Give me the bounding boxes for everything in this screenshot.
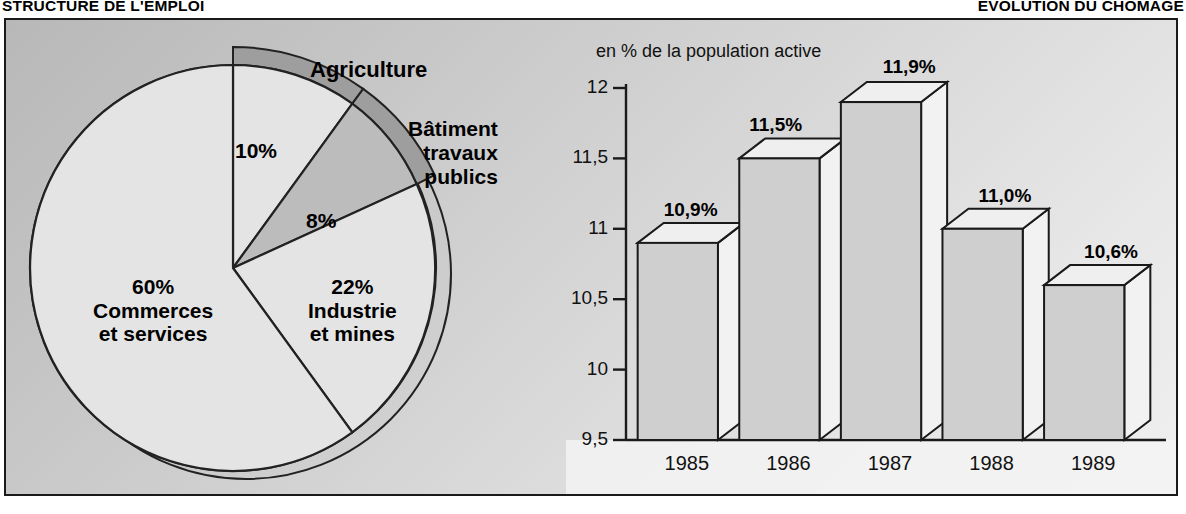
bar-value-label-1987: 11,9% xyxy=(883,56,936,78)
pie-chart-svg xyxy=(18,22,563,494)
bar-axis-note: en % de la population active xyxy=(596,41,821,62)
bar-group-1988 xyxy=(942,209,1048,440)
x-tick-label-1985: 1985 xyxy=(642,452,732,475)
x-tick-label-1988: 1988 xyxy=(947,452,1037,475)
bar-group-1987 xyxy=(841,82,947,440)
bar-value-label-1988: 11,0% xyxy=(978,185,1031,207)
pie-label-commerces-line2: et services xyxy=(93,322,213,346)
pie-label-btp-line2: travaux xyxy=(408,141,498,165)
pie-value-btp: 8% xyxy=(306,209,336,233)
pie-label-industrie: 22% Industrie et mines xyxy=(308,275,397,346)
y-tick-label-10-5: 10,5 xyxy=(554,287,608,309)
bar-group-1985 xyxy=(638,223,744,440)
bar-group-1986 xyxy=(739,138,845,440)
pie-value-commerces: 60% xyxy=(93,275,213,299)
page-title-right: EVOLUTION DU CHOMAGE xyxy=(978,0,1184,15)
pie-label-commerces-line1: Commerces xyxy=(93,299,213,323)
bar-front-face xyxy=(841,102,921,440)
pie-label-commerces: 60% Commerces et services xyxy=(93,275,213,346)
y-tick-label-12: 12 xyxy=(554,76,608,98)
bar-value-label-1985: 10,9% xyxy=(664,199,718,221)
chart-frame: Agriculture Bâtiment travaux publics 10%… xyxy=(4,18,1178,496)
bar-side-face xyxy=(1124,265,1150,440)
bar-front-face xyxy=(739,158,819,440)
pie-value-industrie: 22% xyxy=(308,275,397,299)
pie-label-industrie-line1: Industrie xyxy=(308,299,397,323)
x-tick-label-1986: 1986 xyxy=(743,452,833,475)
y-tick-label-11-5: 11,5 xyxy=(554,146,608,168)
chart-frame-inner: Agriculture Bâtiment travaux publics 10%… xyxy=(6,20,1176,494)
pie-label-btp-line1: Bâtiment xyxy=(408,117,498,141)
pie-value-agriculture: 10% xyxy=(235,139,277,163)
page-title-left: STRUCTURE DE L'EMPLOI xyxy=(2,0,205,15)
bar-value-label-1986: 11,5% xyxy=(749,114,802,136)
x-tick-label-1989: 1989 xyxy=(1048,452,1138,475)
pie-label-industrie-line2: et mines xyxy=(308,322,397,346)
pie-label-btp: Bâtiment travaux publics xyxy=(408,117,498,189)
bar-front-face xyxy=(1044,285,1124,440)
bar-value-label-1989: 10,6% xyxy=(1084,241,1138,263)
y-tick-label-9-5: 9,5 xyxy=(554,428,608,450)
bar-front-face xyxy=(638,243,718,440)
pie-chart: Agriculture Bâtiment travaux publics 10%… xyxy=(18,22,563,494)
pie-label-agriculture: Agriculture xyxy=(310,58,427,83)
bar-chart: en % de la population active 9,51010,511… xyxy=(566,22,1176,494)
pie-label-btp-line3: publics xyxy=(408,165,498,189)
x-tick-label-1987: 1987 xyxy=(845,452,935,475)
bar-group-1989 xyxy=(1044,265,1150,440)
bar-front-face xyxy=(942,229,1022,440)
y-tick-label-10: 10 xyxy=(554,358,608,380)
y-tick-label-11: 11 xyxy=(554,217,608,239)
